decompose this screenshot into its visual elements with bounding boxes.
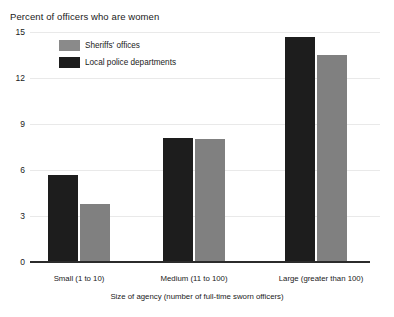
bar-chart: Percent of officers who are women 15 12 … bbox=[0, 0, 394, 317]
legend-swatch-local-police-departments bbox=[59, 57, 80, 68]
legend-item-local-police-departments: Local police departments bbox=[59, 55, 176, 69]
x-tick-label-large: Large (greater than 100) bbox=[251, 274, 391, 283]
y-tick-label-3: 3 bbox=[8, 211, 25, 221]
bar-local-police-medium bbox=[163, 138, 193, 262]
legend-swatch-sheriffs-offices bbox=[59, 40, 80, 51]
x-axis-title: Size of agency (number of full-time swor… bbox=[0, 292, 394, 301]
bar-sheriffs-large bbox=[317, 55, 347, 262]
bar-sheriffs-medium bbox=[195, 139, 225, 262]
legend-item-sheriffs-offices: Sheriffs' offices bbox=[59, 38, 176, 52]
legend-label-sheriffs-offices: Sheriffs' offices bbox=[85, 41, 140, 50]
legend-label-local-police-departments: Local police departments bbox=[85, 58, 176, 67]
bar-sheriffs-small bbox=[80, 204, 110, 262]
chart-title: Percent of officers who are women bbox=[10, 11, 159, 22]
x-tick-label-small: Small (1 to 10) bbox=[19, 274, 139, 283]
bar-group-large bbox=[285, 32, 347, 262]
y-tick-label-12: 12 bbox=[8, 73, 25, 83]
y-tick-label-9: 9 bbox=[8, 119, 25, 129]
y-tick-label-15: 15 bbox=[8, 27, 25, 37]
chart-legend: Sheriffs' offices Local police departmen… bbox=[59, 38, 176, 72]
bar-local-police-large bbox=[285, 37, 315, 262]
x-axis-line bbox=[30, 261, 370, 263]
y-tick-label-6: 6 bbox=[8, 165, 25, 175]
bar-local-police-small bbox=[48, 175, 78, 262]
y-tick-label-0: 0 bbox=[8, 257, 25, 267]
x-tick-label-medium: Medium (11 to 100) bbox=[134, 274, 254, 283]
